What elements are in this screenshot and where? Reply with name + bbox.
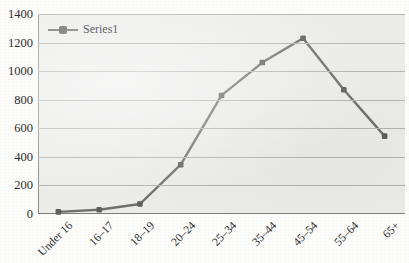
y-tick-label: 1200 xyxy=(8,37,33,50)
x-tick-label: 45–54 xyxy=(277,219,319,261)
data-point-marker[interactable]: Under 16: 15 xyxy=(56,209,62,215)
data-point-marker[interactable]: 35–44: 1060 xyxy=(259,60,265,66)
gridline xyxy=(38,14,405,15)
y-tick-label: 1400 xyxy=(8,8,33,21)
x-tick-label: 20–24 xyxy=(155,219,197,261)
gridline xyxy=(38,71,405,72)
data-point-marker[interactable]: 18–19: 70 xyxy=(137,201,143,207)
gridline xyxy=(38,185,405,186)
y-axis: 0200400600800100012001400 xyxy=(0,0,33,263)
gridline xyxy=(38,100,405,101)
y-tick-label: 0 xyxy=(27,208,33,221)
data-point-marker[interactable]: 65+: 545 xyxy=(382,133,388,139)
x-tick-label: 18–19 xyxy=(114,219,156,261)
y-tick-label: 1000 xyxy=(8,65,33,78)
y-tick-label: 200 xyxy=(14,179,33,192)
gridline xyxy=(38,128,405,129)
series1-line: Under 16: 1516–17: 3018–19: 7020–24: 345… xyxy=(38,14,405,214)
data-point-marker[interactable]: 45–54: 1230 xyxy=(300,35,306,41)
data-point-marker[interactable]: 55–64: 870 xyxy=(341,87,347,93)
x-tick-label: 55–64 xyxy=(318,219,360,261)
line-chart: 0200400600800100012001400 Series1 Under … xyxy=(0,0,409,263)
y-tick-label: 800 xyxy=(14,94,33,107)
data-point-marker[interactable]: 25–34: 830 xyxy=(219,93,225,99)
x-tick-label: 25–34 xyxy=(196,219,238,261)
y-tick-label: 600 xyxy=(14,122,33,135)
data-point-marker[interactable]: 20–24: 345 xyxy=(178,162,184,168)
x-tick-label: 16–17 xyxy=(73,219,115,261)
gridline xyxy=(38,157,405,158)
plot-area: Series1 Under 16: 1516–17: 3018–19: 7020… xyxy=(38,14,405,214)
data-point-marker[interactable]: 16–17: 30 xyxy=(96,207,102,213)
x-tick-label: Under 16 xyxy=(32,219,74,261)
y-tick-label: 400 xyxy=(14,151,33,164)
x-tick-label: 65+ xyxy=(359,219,401,261)
x-tick-label: 35–44 xyxy=(236,219,278,261)
gridline xyxy=(38,43,405,44)
